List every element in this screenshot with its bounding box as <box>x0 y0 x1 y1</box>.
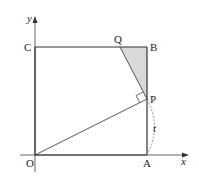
label-q: Q <box>114 33 122 45</box>
label-p: P <box>150 93 156 105</box>
y-axis-arrow-icon <box>33 16 38 23</box>
segment-op <box>35 99 147 155</box>
label-c: C <box>24 41 31 53</box>
label-t: t <box>153 122 157 134</box>
label-b: B <box>150 41 157 53</box>
geometry-diagram: C Q B P O A x y t <box>0 0 199 183</box>
label-a: A <box>143 157 151 169</box>
label-o: O <box>26 157 34 169</box>
label-y: y <box>26 12 32 24</box>
label-x: x <box>180 155 186 167</box>
